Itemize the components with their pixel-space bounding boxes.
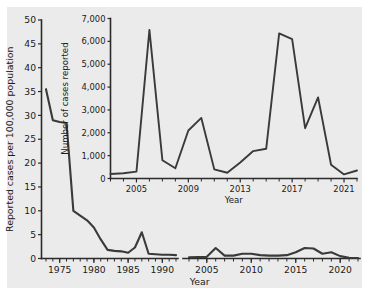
inset-y-ticklabel: 6,000 (82, 36, 106, 46)
main-axis-labels: 05101520253035404550Reported cases per 1… (4, 14, 352, 286)
main-x-axis-title: Year (189, 276, 210, 287)
main-series-line-right (189, 248, 358, 258)
main-x-ticklabel: 1980 (82, 264, 106, 275)
main-y-ticklabel: 45 (24, 38, 36, 49)
inset-x-ticklabel: 2009 (178, 184, 199, 194)
inset-x-ticklabel: 2013 (230, 184, 251, 194)
main-y-ticklabel: 10 (24, 205, 36, 216)
inset-y-ticklabel: 3,000 (82, 105, 106, 115)
inset-x-ticklabel: 2017 (281, 184, 302, 194)
inset-y-ticklabel: 4,000 (82, 82, 106, 92)
main-x-ticklabel: 2005 (195, 264, 219, 275)
main-y-ticklabel: 20 (24, 157, 36, 168)
figure-container: 05101520253035404550Reported cases per 1… (0, 0, 369, 295)
main-x-ticklabel: 1985 (116, 264, 140, 275)
main-axes-group (38, 20, 360, 263)
inset-x-axis-title: Year (224, 195, 244, 205)
inset-y-ticklabel: 7,000 (82, 14, 106, 24)
main-x-ticklabel: 2020 (329, 264, 353, 275)
main-y-ticklabel: 50 (24, 14, 36, 25)
chart-svg: 05101520253035404550Reported cases per 1… (0, 0, 369, 295)
inset-series-line (111, 30, 358, 174)
main-y-ticklabel: 35 (24, 86, 36, 97)
main-y-ticklabel: 30 (24, 110, 36, 121)
main-x-ticklabel: 1975 (48, 264, 72, 275)
main-y-ticklabel: 40 (24, 62, 36, 73)
inset-axis-labels: 01,0002,0003,0004,0005,0006,0007,000Numb… (60, 14, 355, 205)
main-y-axis-title: Reported cases per 100,000 population (4, 47, 15, 232)
inset-x-ticklabel: 2021 (333, 184, 354, 194)
main-y-ticklabel: 0 (30, 253, 36, 264)
inset-y-ticklabel: 0 (100, 174, 105, 184)
inset-y-ticklabel: 5,000 (82, 59, 106, 69)
inset-data-line (111, 30, 358, 174)
main-x-ticklabel: 2015 (284, 264, 308, 275)
main-y-ticklabel: 15 (24, 181, 36, 192)
main-x-ticklabel: 2010 (240, 264, 264, 275)
main-x-ticklabel: 1990 (151, 264, 175, 275)
inset-y-axis-title: Number of cases reported (60, 42, 70, 154)
inset-y-ticklabel: 1,000 (82, 151, 106, 161)
main-y-ticklabel: 5 (30, 229, 36, 240)
inset-x-ticklabel: 2005 (126, 184, 147, 194)
main-y-ticklabel: 25 (24, 133, 36, 144)
inset-y-ticklabel: 2,000 (82, 128, 106, 138)
